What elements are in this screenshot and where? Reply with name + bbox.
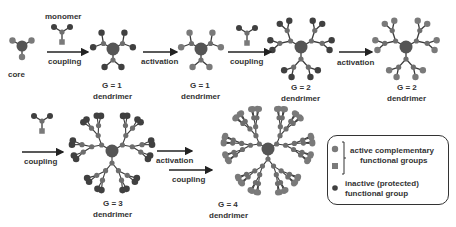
- inactive-end-group: [124, 112, 131, 119]
- core-atom: [262, 143, 275, 156]
- branch-point: [120, 41, 125, 46]
- branch-point: [119, 178, 124, 183]
- active-end-group: [424, 21, 430, 27]
- monomer-inactive-end: [47, 113, 53, 119]
- active-end-group: [189, 64, 195, 70]
- g3-title: G = 3: [103, 199, 123, 209]
- branch-point: [283, 143, 288, 148]
- branch-point: [116, 168, 121, 173]
- branch-point: [257, 141, 262, 146]
- branch-point: [198, 57, 203, 62]
- branch-point: [292, 141, 297, 146]
- branch-point: [139, 142, 144, 147]
- branch-point: [253, 180, 258, 185]
- branch-point: [123, 123, 128, 128]
- legend-box: active complementary functional groups i…: [327, 135, 449, 205]
- active-end-group: [391, 18, 397, 24]
- active-circle-icon: [332, 146, 338, 152]
- g1b-title: G = 1: [190, 81, 210, 91]
- branch-point: [189, 41, 194, 46]
- active-end-group: [209, 29, 215, 35]
- branch-point: [252, 168, 257, 173]
- active-end-group: [431, 47, 437, 53]
- branch-point: [101, 41, 106, 46]
- inactive-end-group: [83, 116, 90, 123]
- branch-point: [301, 140, 306, 145]
- g2b-subtitle: dendrimer: [387, 94, 426, 104]
- inactive-end-group: [90, 44, 96, 50]
- branch-point: [298, 56, 303, 61]
- branch-point: [120, 142, 125, 147]
- branch-point: [288, 38, 293, 43]
- inactive-end-group: [326, 47, 332, 53]
- monomer-active-square: [59, 39, 65, 45]
- active-end-group: [372, 37, 378, 43]
- branch-point: [244, 172, 249, 177]
- bracket-icon: [342, 142, 346, 174]
- branch-point: [291, 121, 296, 126]
- active-end-group: [186, 29, 192, 35]
- active-end-group: [275, 190, 281, 196]
- core-atom: [17, 41, 28, 52]
- core-atom: [106, 145, 119, 158]
- core-label: core: [8, 70, 25, 80]
- g1-title: G = 1: [102, 81, 122, 91]
- branch-point: [271, 163, 276, 168]
- active-end-group: [386, 67, 392, 73]
- active-end-group: [282, 106, 288, 112]
- core-atom: [107, 43, 120, 56]
- g1-subtitle: dendrimer: [93, 92, 132, 102]
- branch-point: [100, 178, 105, 183]
- branch-point: [79, 142, 84, 147]
- branch-point: [109, 160, 114, 165]
- legend-inactive-line2: functional group: [345, 189, 408, 199]
- branch-point: [320, 41, 325, 46]
- monomer-inactive-end: [31, 113, 37, 119]
- branch-point: [257, 172, 262, 177]
- g2-title: G = 2: [291, 83, 311, 93]
- branch-point: [275, 181, 280, 186]
- branch-point: [414, 38, 419, 43]
- branch-point: [283, 126, 288, 131]
- active-end-group: [222, 151, 228, 157]
- inactive-end-group: [101, 64, 107, 70]
- branch-point: [390, 28, 395, 33]
- branch-point: [231, 150, 236, 155]
- active-end-group: [420, 67, 426, 73]
- branch-point: [309, 38, 314, 43]
- branch-point: [208, 41, 213, 46]
- legend-active-line2: functional groups: [360, 156, 428, 166]
- inactive-end-group: [119, 187, 126, 194]
- monomer-inactive-end: [67, 24, 73, 30]
- active-end-group: [291, 181, 297, 187]
- inactive-end-group: [84, 175, 91, 182]
- g2b-title: G = 2: [397, 83, 417, 93]
- branch-point: [425, 41, 430, 46]
- inactive-end-group: [288, 74, 294, 80]
- inactive-end-group: [281, 67, 287, 73]
- g3-subtitle: dendrimer: [93, 210, 132, 220]
- legend-inactive-line1: inactive (protected): [345, 179, 419, 189]
- branch-point: [285, 174, 290, 179]
- active-end-group: [382, 21, 388, 27]
- active-end-group: [28, 37, 34, 43]
- active-end-group: [222, 133, 228, 139]
- branch-point: [247, 126, 252, 131]
- branch-point: [243, 119, 248, 124]
- legend-active-line1: active complementary: [350, 146, 434, 156]
- branch-point: [279, 168, 284, 173]
- branch-point: [312, 28, 317, 33]
- core-atom: [295, 41, 308, 54]
- active-end-group: [412, 74, 418, 80]
- branch-point: [253, 133, 258, 138]
- inactive-end-group: [118, 64, 124, 70]
- branch-point: [417, 28, 422, 33]
- active-square-icon: [332, 163, 338, 169]
- active-end-group: [304, 158, 310, 164]
- core-atom: [400, 41, 413, 54]
- active-end-group: [235, 174, 241, 180]
- branch-point: [96, 133, 101, 138]
- branch-point: [89, 126, 94, 131]
- branch-point: [99, 142, 104, 147]
- branch-point: [103, 168, 108, 173]
